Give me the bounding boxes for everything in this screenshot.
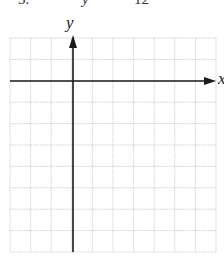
y-axis-arrow-icon xyxy=(69,35,77,48)
coordinate-grid xyxy=(0,0,224,257)
x-axis-arrow-icon xyxy=(204,77,216,85)
grid-lines xyxy=(10,38,216,252)
